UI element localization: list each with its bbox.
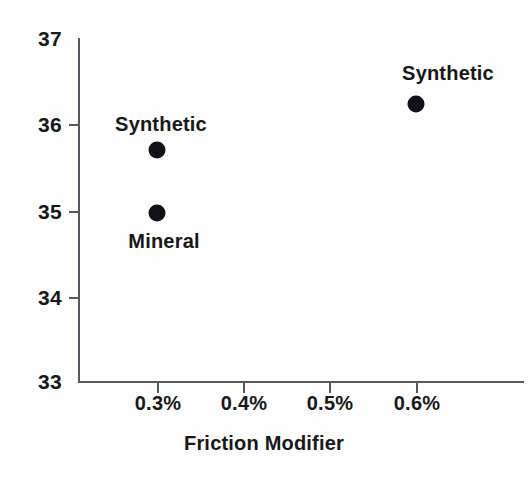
scatter-chart: 37 36 35 34 33 0.3% 0.4% 0.5% 0.6% Frict… xyxy=(0,0,528,478)
y-axis-label-37-wrap: 37 xyxy=(18,27,62,51)
x-axis-label-0.3: 0.3% xyxy=(113,392,203,415)
y-axis-label-34: 34 xyxy=(22,286,62,310)
data-point-synthetic-0.3 xyxy=(149,142,166,159)
y-axis-label-35-wrap: 35 xyxy=(18,200,62,224)
data-point-synthetic-0.6 xyxy=(408,96,425,113)
y-axis-label-33-wrap: 33 xyxy=(18,370,62,394)
y-axis-tick-36 xyxy=(69,124,79,126)
x-axis-title: Friction Modifier xyxy=(0,432,528,455)
annotation-mineral-left: Mineral xyxy=(128,230,199,253)
y-axis-tick-34 xyxy=(69,297,79,299)
annotation-synthetic-left: Synthetic xyxy=(115,113,207,136)
y-axis-label-36: 36 xyxy=(22,113,62,137)
y-axis-label-35: 35 xyxy=(22,200,62,224)
annotation-synthetic-right: Synthetic xyxy=(402,62,494,85)
x-axis-label-0.5: 0.5% xyxy=(285,392,375,415)
x-axis-line xyxy=(78,381,524,383)
y-axis-label-33: 33 xyxy=(22,370,62,394)
x-axis-label-0.6: 0.6% xyxy=(372,392,462,415)
y-axis-label-37: 37 xyxy=(22,27,62,51)
y-axis-label-34-wrap: 34 xyxy=(18,286,62,310)
x-axis-label-0.4: 0.4% xyxy=(199,392,289,415)
y-axis-label-36-wrap: 36 xyxy=(18,113,62,137)
y-axis-tick-35 xyxy=(69,211,79,213)
data-point-mineral-0.3 xyxy=(149,205,166,222)
